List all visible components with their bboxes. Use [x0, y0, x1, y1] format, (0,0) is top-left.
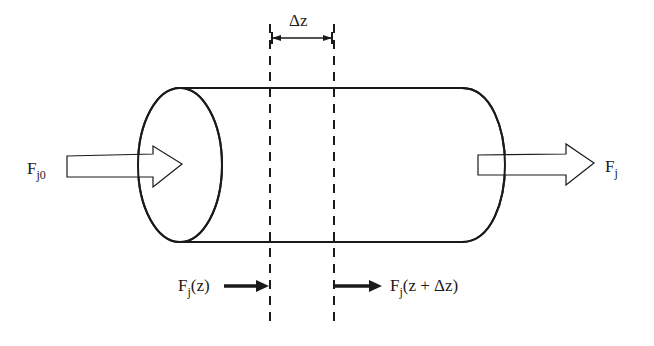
- flow-at-z-arrow-icon: [224, 280, 269, 292]
- delta-z-dimension: [272, 32, 332, 44]
- outlet-flow-label: Fj: [605, 157, 618, 180]
- flow-at-z-plus-dz-label: Fj(z + Δz): [390, 276, 458, 299]
- inlet-flow-label: Fj0: [27, 159, 46, 182]
- pfr-diagram: Δz Fj0 Fj Fj(z) Fj(z + Δz): [0, 0, 654, 346]
- inlet-arrow-icon: [67, 146, 182, 187]
- cylinder: [138, 88, 505, 242]
- flow-at-z-plus-dz-arrow-icon: [334, 280, 382, 292]
- slice-boundaries: [270, 24, 334, 326]
- delta-z-label: Δz: [289, 11, 308, 30]
- flow-at-z-label: Fj(z): [178, 276, 210, 299]
- outlet-arrow-icon: [478, 144, 594, 185]
